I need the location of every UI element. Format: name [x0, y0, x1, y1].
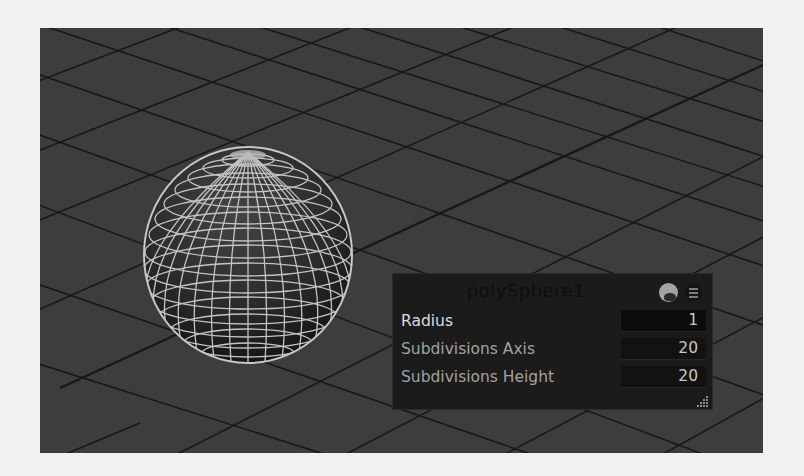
radius-field[interactable]: 1 — [621, 310, 706, 332]
sphere-object[interactable] — [144, 147, 352, 363]
row-value: 1 — [688, 311, 698, 329]
row-label: Subdivisions Height — [401, 368, 554, 386]
in-view-editor-panel: polySphere1 Radius 1 Subdivisions Axis 2… — [392, 273, 713, 410]
attribute-row-radius[interactable]: Radius 1 — [393, 308, 712, 336]
panel-title[interactable]: polySphere1 — [393, 280, 659, 301]
node-editor-icon[interactable] — [659, 283, 678, 302]
row-value: 20 — [678, 339, 698, 357]
panel-header: polySphere1 — [393, 274, 712, 308]
resize-grip-icon[interactable] — [698, 396, 708, 406]
subdivisions-axis-field[interactable]: 20 — [621, 338, 706, 360]
row-label: Subdivisions Axis — [401, 340, 535, 358]
subdivisions-height-field[interactable]: 20 — [621, 366, 706, 388]
row-label: Radius — [401, 312, 453, 330]
row-value: 20 — [678, 367, 698, 385]
attribute-row-subdivisions-axis[interactable]: Subdivisions Axis 20 — [393, 336, 712, 364]
menu-icon[interactable] — [685, 284, 702, 301]
3d-viewport[interactable]: polySphere1 Radius 1 Subdivisions Axis 2… — [40, 28, 763, 453]
attribute-row-subdivisions-height[interactable]: Subdivisions Height 20 — [393, 364, 712, 392]
